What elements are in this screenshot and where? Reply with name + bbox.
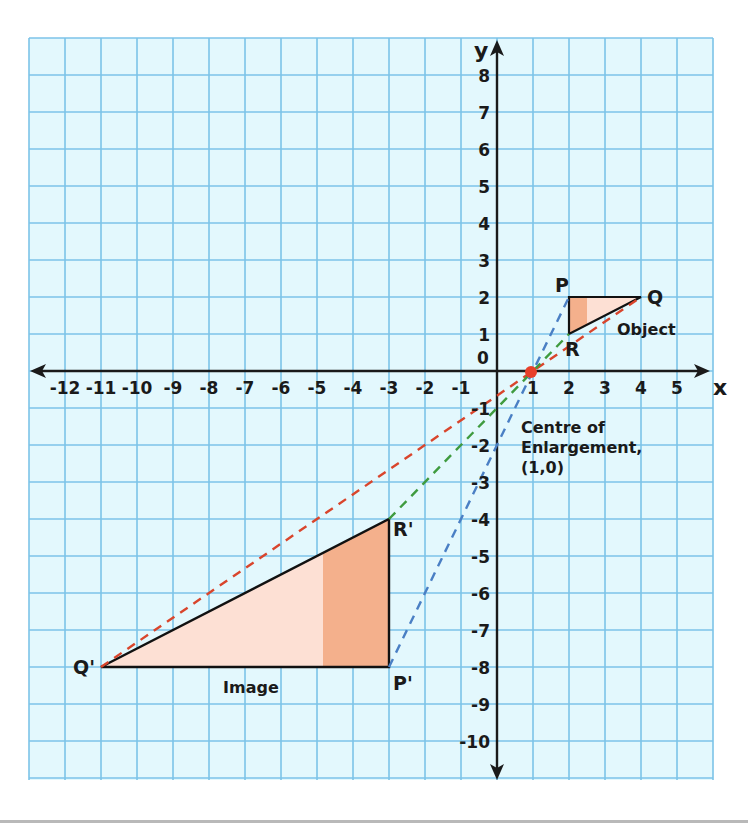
y-tick-label: -9 — [471, 695, 490, 715]
object-caption: Object — [617, 320, 676, 339]
vertex-label-p-image: P' — [393, 672, 413, 694]
y-tick-label: 7 — [478, 103, 490, 123]
y-tick-label: -6 — [471, 584, 490, 604]
y-tick-label: 5 — [478, 177, 490, 197]
x-tick-label: -9 — [164, 378, 183, 398]
x-axis-label: x — [713, 375, 727, 400]
x-tick-label: -2 — [416, 378, 435, 398]
vertex-label-r: R — [565, 338, 580, 360]
x-tick-label: 4 — [635, 378, 647, 398]
y-tick-label: -3 — [471, 473, 490, 493]
vertex-label-q: Q — [647, 286, 663, 308]
x-tick-label: -5 — [308, 378, 327, 398]
y-tick-label: 1 — [478, 325, 490, 345]
vertex-label-q-image: Q' — [73, 656, 95, 678]
x-tick-label: -12 — [50, 378, 81, 398]
x-tick-label: 3 — [599, 378, 611, 398]
y-tick-label: 4 — [478, 214, 490, 234]
y-tick-label: -7 — [471, 621, 490, 641]
x-tick-label: -1 — [452, 378, 471, 398]
y-tick-label: -5 — [471, 547, 490, 567]
diagram-canvas: -12-11-10-9-8-7-6-5-4-3-2-112345 8765432… — [0, 0, 748, 823]
y-tick-label: -2 — [471, 436, 490, 456]
x-tick-label: -3 — [380, 378, 399, 398]
vertex-label-r-image: R' — [393, 518, 413, 540]
origin-label: 0 — [477, 348, 489, 368]
centre-caption-line3: (1,0) — [521, 458, 564, 477]
x-tick-label: -10 — [122, 378, 153, 398]
y-axis-label: y — [474, 38, 488, 63]
y-tick-label: 8 — [478, 66, 490, 86]
x-tick-label: -6 — [272, 378, 291, 398]
x-tick-label: 2 — [563, 378, 575, 398]
y-tick-label: -4 — [471, 510, 490, 530]
x-tick-label: 5 — [671, 378, 683, 398]
x-tick-label: -8 — [200, 378, 219, 398]
vertex-label-p: P — [555, 274, 569, 296]
y-tick-label: -10 — [459, 732, 490, 752]
y-tick-label: 6 — [478, 140, 490, 160]
y-tick-label: -8 — [471, 658, 490, 678]
centre-caption-line1: Centre of — [521, 418, 606, 437]
x-tick-label: -7 — [236, 378, 255, 398]
image-caption: Image — [223, 678, 279, 697]
x-tick-label: -4 — [344, 378, 363, 398]
y-tick-label: 2 — [478, 288, 490, 308]
x-tick-label: 1 — [527, 378, 539, 398]
centre-caption-line2: Enlargement, — [521, 438, 642, 457]
y-tick-label: 3 — [478, 251, 490, 271]
centre-of-enlargement-dot — [525, 366, 537, 378]
y-tick-label: -1 — [471, 399, 490, 419]
enlargement-diagram: -12-11-10-9-8-7-6-5-4-3-2-112345 8765432… — [0, 0, 748, 823]
x-tick-label: -11 — [86, 378, 117, 398]
